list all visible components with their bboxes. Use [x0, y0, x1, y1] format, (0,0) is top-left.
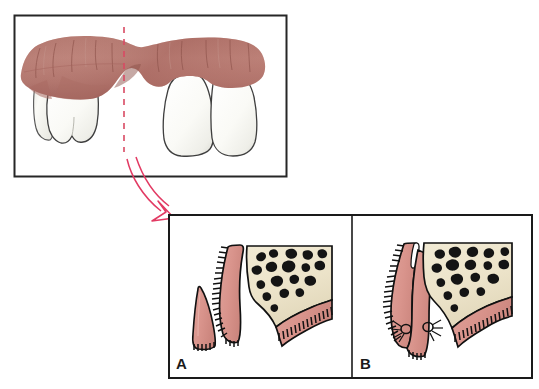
panel-a-label: A	[176, 355, 187, 372]
cross-section-panels: A	[169, 215, 532, 378]
tooth-right-incisor	[163, 74, 214, 156]
dental-figure: A	[0, 0, 539, 389]
clinical-overview-panel	[15, 16, 287, 177]
figure-canvas: A	[0, 0, 539, 389]
panel-b-label: B	[360, 355, 371, 372]
